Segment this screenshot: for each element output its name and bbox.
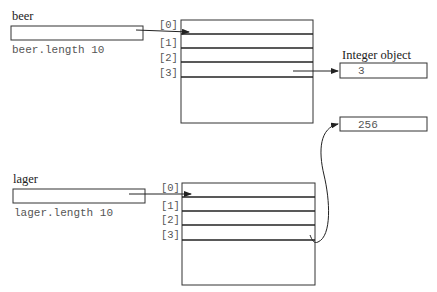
lager-variable: lager lager.length 10: [13, 172, 145, 219]
lager-index-0: [0]: [161, 182, 180, 194]
integer-object-3-box: [340, 63, 427, 78]
array-reference-diagram: beer beer.length 10 [0] [1] [2] [3] Inte…: [0, 0, 437, 292]
lager-index-3: [3]: [161, 229, 180, 241]
integer-object-256-box: [340, 117, 427, 131]
lager-index-1: [1]: [161, 200, 180, 212]
lager-label: lager: [13, 172, 39, 186]
integer-objects: Integer object 3 256: [340, 48, 427, 131]
beer-variable: beer beer.length 10: [11, 9, 143, 56]
integer-object-3-value: 3: [358, 65, 365, 77]
integer-object-256-value: 256: [358, 119, 378, 131]
beer-index-2: [2]: [159, 52, 178, 64]
lager-array-box: [182, 183, 315, 285]
beer-array: [0] [1] [2] [3]: [159, 19, 313, 123]
beer-length-label: beer.length 10: [12, 44, 104, 56]
lager-index-2: [2]: [161, 214, 180, 226]
beer-reference-box: [11, 26, 143, 40]
lager-reference-box: [13, 189, 145, 203]
beer-index-3: [3]: [159, 67, 178, 79]
beer-index-1: [1]: [159, 37, 178, 49]
lager-array: [0] [1] [2] [3]: [161, 182, 315, 285]
integer-object-heading: Integer object: [342, 48, 412, 62]
beer-index-0: [0]: [159, 19, 178, 31]
lager-length-label: lager.length 10: [14, 207, 113, 219]
beer-label: beer: [12, 9, 34, 23]
